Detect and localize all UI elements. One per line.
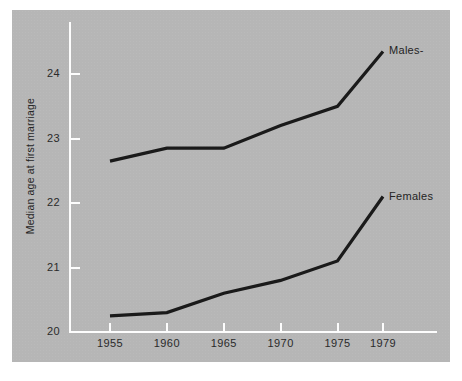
series-label-males: Males-: [389, 45, 424, 56]
series-label-females: Females: [389, 191, 433, 202]
series-line-males: [110, 51, 383, 161]
figure: 2021222324 195519601965197019751979 Medi…: [0, 0, 462, 381]
plot-area: [12, 10, 450, 362]
series-line-females: [110, 197, 383, 316]
chart-panel: 2021222324 195519601965197019751979 Medi…: [12, 10, 450, 362]
